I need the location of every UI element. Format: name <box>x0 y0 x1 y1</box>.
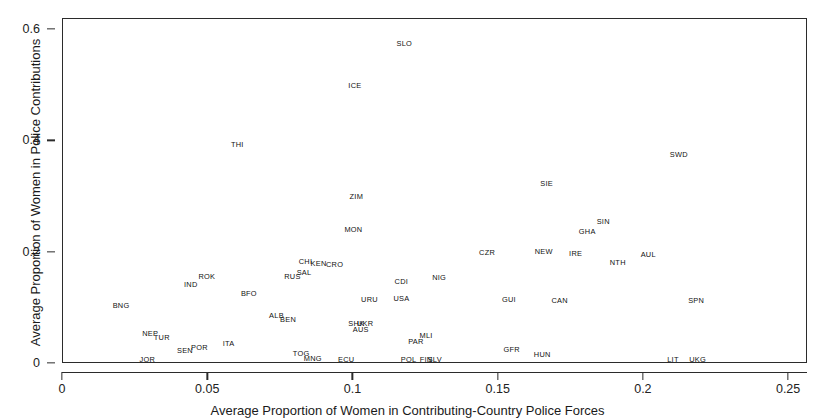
data-point-label: TUR <box>154 334 170 341</box>
y-tick-label: 0.4 <box>23 133 40 147</box>
y-tick-label: 0.6 <box>23 22 40 36</box>
data-point-label: CAN <box>551 297 567 304</box>
data-point-label: THI <box>231 141 244 148</box>
data-point-label: ICE <box>348 82 361 89</box>
data-point-label: POR <box>191 344 208 351</box>
data-point-label: CDI <box>395 278 408 285</box>
data-point-label: SWD <box>670 151 688 158</box>
data-point-label: BNG <box>113 302 130 309</box>
data-point-label: SIN <box>597 218 610 225</box>
y-tick-label: 0.2 <box>23 245 40 259</box>
data-point-label: MNG <box>304 355 322 362</box>
data-point-label: GFR <box>504 346 520 353</box>
data-point-label: SIE <box>540 180 553 187</box>
data-point-label: CRO <box>326 261 343 268</box>
data-point-label: AUL <box>641 251 656 258</box>
y-axis: Average Proportion of Women in Police Co… <box>0 0 62 419</box>
x-tick-label: 0.15 <box>486 382 510 396</box>
data-point-label: PAR <box>408 338 423 345</box>
data-point-label: HUN <box>534 351 551 358</box>
data-point-label: NEW <box>535 248 553 255</box>
data-point-label: NTH <box>610 259 626 266</box>
data-point-label: IND <box>184 282 197 289</box>
data-point-label: GUI <box>502 296 516 303</box>
data-point-label: CZR <box>479 250 495 257</box>
x-tick-label: 0.25 <box>776 382 800 396</box>
data-point-label: RUS <box>284 273 300 280</box>
data-point-label: IRE <box>569 250 582 257</box>
x-tick-label: 0 <box>59 382 66 396</box>
y-tick-mark <box>47 140 55 141</box>
y-axis-title: Average Proportion of Women in Police Co… <box>28 28 43 358</box>
x-tick-mark <box>352 372 353 380</box>
data-point-label: MON <box>344 226 362 233</box>
data-point-label: SLO <box>396 40 412 47</box>
data-point-label: KEN <box>311 261 327 268</box>
data-point-label: BFO <box>241 291 257 298</box>
y-tick-mark <box>47 28 55 29</box>
x-tick-label: 0.1 <box>344 382 361 396</box>
y-tick-mark <box>47 251 55 252</box>
x-axis-line <box>62 372 807 373</box>
x-tick-mark <box>497 372 498 380</box>
x-axis-title: Average Proportion of Women in Contribut… <box>0 403 815 418</box>
data-point-label: GHA <box>579 228 596 235</box>
x-tick-mark <box>787 372 788 380</box>
x-axis: 00.050.10.150.20.25 Average Proportion o… <box>0 363 815 419</box>
x-tick-mark <box>207 372 208 380</box>
data-point-label: BEN <box>280 316 296 323</box>
data-point-label: ROK <box>198 274 215 281</box>
data-point-label: NIG <box>432 274 446 281</box>
x-tick-label: 0.2 <box>634 382 651 396</box>
x-tick-label: 0.05 <box>195 382 219 396</box>
data-point-label: ZIM <box>350 193 363 200</box>
data-point-label: SPN <box>688 298 704 305</box>
data-point-label: USA <box>393 295 409 302</box>
plot-area: SLOICETHISWDSIEZIMSINMONGHANEWIREAULCZRN… <box>62 18 807 363</box>
x-tick-mark <box>642 372 643 380</box>
scatter-plot-figure: Average Proportion of Women in Police Co… <box>0 0 815 419</box>
data-point-label: SEN <box>177 348 193 355</box>
data-point-label: ITA <box>223 341 235 348</box>
data-point-label: URU <box>361 296 378 303</box>
x-tick-mark <box>61 372 62 380</box>
data-point-label: AUS <box>353 326 369 333</box>
